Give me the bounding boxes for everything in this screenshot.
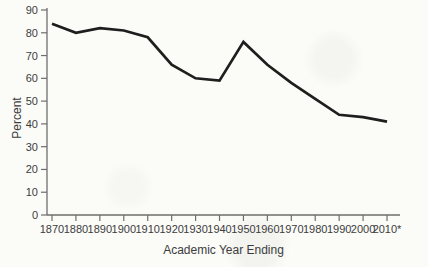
x-axis-title: Academic Year Ending bbox=[47, 243, 400, 257]
y-tick-label: 40 bbox=[26, 118, 38, 130]
y-tick-label: 90 bbox=[26, 4, 38, 16]
x-tick-label: 1870 bbox=[40, 223, 64, 235]
axis-ticks bbox=[41, 10, 387, 221]
x-tick-label: 1920 bbox=[159, 223, 183, 235]
y-tick-label: 60 bbox=[26, 72, 38, 84]
x-tick-label: 1960 bbox=[255, 223, 279, 235]
data-line bbox=[52, 24, 387, 122]
y-axis-title: Percent bbox=[10, 97, 24, 138]
x-tick-label: 1930 bbox=[183, 223, 207, 235]
y-tick-label: 70 bbox=[26, 50, 38, 62]
x-tick-label: 1990 bbox=[327, 223, 351, 235]
x-tick-label: 1940 bbox=[207, 223, 231, 235]
y-tick-label: 0 bbox=[32, 209, 38, 221]
axes bbox=[47, 8, 400, 215]
y-tick-label: 50 bbox=[26, 95, 38, 107]
y-tick-label: 80 bbox=[26, 27, 38, 39]
x-tick-label: 1980 bbox=[303, 223, 327, 235]
y-tick-label: 20 bbox=[26, 163, 38, 175]
line-chart: 0102030405060708090187018801890190019101… bbox=[0, 0, 428, 267]
axis-tick-labels: 0102030405060708090187018801890190019101… bbox=[26, 4, 402, 235]
x-tick-label: 1970 bbox=[279, 223, 303, 235]
x-tick-label: 1890 bbox=[88, 223, 112, 235]
x-tick-label: 2010* bbox=[373, 223, 402, 235]
y-tick-label: 30 bbox=[26, 141, 38, 153]
data-series bbox=[52, 24, 387, 122]
x-tick-label: 1880 bbox=[64, 223, 88, 235]
x-tick-label: 1900 bbox=[112, 223, 136, 235]
chart-figure: 0102030405060708090187018801890190019101… bbox=[0, 0, 428, 267]
y-tick-label: 10 bbox=[26, 186, 38, 198]
x-tick-label: 1910 bbox=[135, 223, 159, 235]
x-tick-label: 1950 bbox=[231, 223, 255, 235]
